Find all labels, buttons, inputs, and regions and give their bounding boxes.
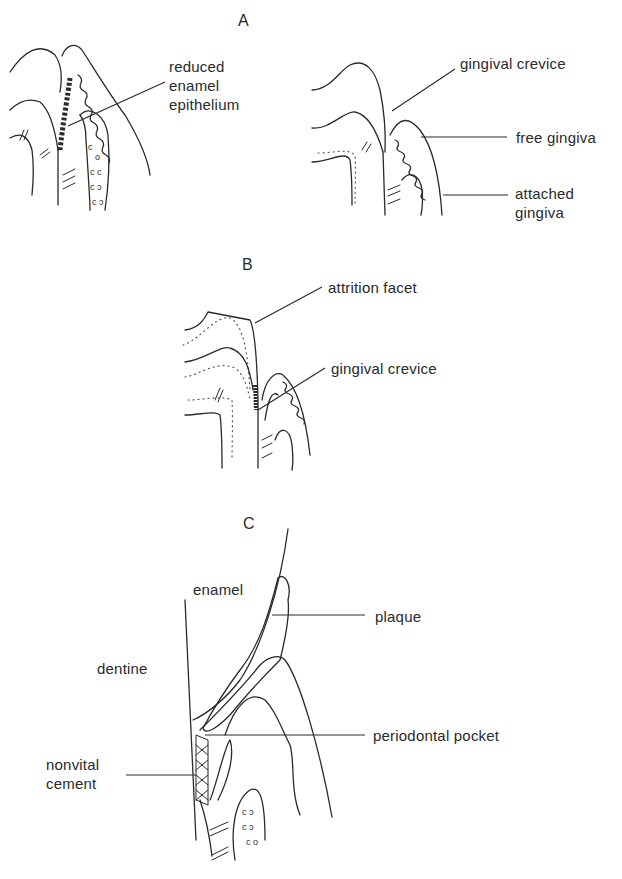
label-nonvital-cement: nonvital cement: [46, 755, 99, 793]
panel-b-drawing: [183, 287, 325, 470]
svg-text:c ɔ: c ɔ: [92, 197, 104, 207]
panel-a-left-drawing: c o c c c ɔ c ɔ: [10, 45, 165, 210]
label-attached-gingiva: attached gingiva: [515, 184, 574, 222]
label-dentine: dentine: [97, 659, 148, 678]
svg-text:o: o: [95, 152, 100, 162]
svg-text:c ɔ: c ɔ: [90, 182, 102, 192]
label-line: reduced: [169, 57, 239, 76]
label-gingival-crevice-a: gingival crevice: [460, 54, 566, 73]
svg-text:c ɔ: c ɔ: [242, 807, 254, 817]
panel-c-drawing: c ɔ c ɔ c o: [126, 529, 365, 860]
svg-text:c c: c c: [90, 167, 102, 177]
label-free-gingiva: free gingiva: [516, 128, 596, 147]
label-line: enamel: [169, 76, 239, 95]
label-periodontal-pocket: periodontal pocket: [373, 726, 499, 745]
svg-text:c o: c o: [246, 837, 258, 847]
panel-letter-a: A: [238, 12, 249, 30]
label-plaque: plaque: [375, 607, 421, 626]
label-reduced-enamel-epithelium: reduced enamel epithelium: [169, 57, 239, 114]
svg-text:c ɔ: c ɔ: [242, 822, 254, 832]
panel-a-right-drawing: [312, 63, 508, 215]
label-line: gingiva: [515, 203, 574, 222]
label-attrition-facet: attrition facet: [328, 278, 417, 297]
label-line: cement: [46, 774, 99, 793]
label-line: nonvital: [46, 755, 99, 774]
label-line: epithelium: [169, 95, 239, 114]
panel-letter-c: C: [243, 515, 255, 533]
label-line: attached: [515, 184, 574, 203]
svg-text:c: c: [88, 142, 93, 152]
panel-letter-b: B: [242, 256, 253, 274]
label-enamel: enamel: [193, 580, 243, 599]
label-gingival-crevice-b: gingival crevice: [331, 359, 437, 378]
